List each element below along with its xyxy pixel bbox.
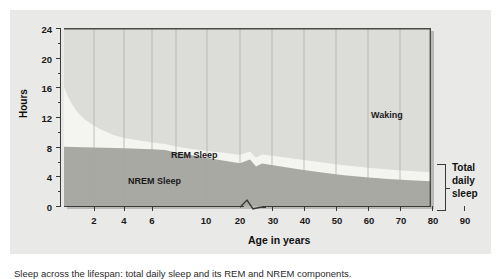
bracket-tick — [445, 188, 450, 189]
band-label-rem: REM Sleep — [171, 150, 218, 160]
x-tick-label-20: 20 — [235, 215, 246, 226]
y-tick-label-12: 12 — [41, 113, 52, 124]
x-tick-label-2: 2 — [91, 215, 96, 226]
x-tick-10 — [272, 206, 273, 211]
x-tick-label-50: 50 — [332, 215, 343, 226]
x-tick-2 — [94, 206, 95, 211]
y-tick-label-8: 8 — [47, 142, 52, 153]
y-tick-0: 0 — [56, 206, 61, 207]
y-tick-12: 12 — [56, 117, 61, 118]
y-tick-24: 24 — [56, 28, 61, 29]
y-tick-minor-18 — [58, 73, 62, 74]
total-sleep-bracket-label: Total daily sleep — [452, 161, 478, 200]
bracket-label-line2: daily — [452, 174, 478, 187]
y-tick-20: 20 — [56, 58, 61, 59]
x-axis-break-icon — [240, 198, 266, 212]
y-tick-label-0: 0 — [47, 202, 52, 213]
y-tick-minor-14 — [58, 102, 62, 103]
x-tick-40 — [368, 206, 369, 211]
x-axis-line-right — [262, 206, 431, 207]
y-tick-label-20: 20 — [41, 53, 52, 64]
x-tick-label-30: 30 — [268, 215, 279, 226]
y-tick-4: 4 — [56, 176, 61, 177]
x-axis: 2 4 6 10 20 30 40 50 60 70 — [64, 206, 431, 208]
y-tick-minor-6 — [58, 162, 62, 163]
y-tick-label-24: 24 — [41, 24, 52, 35]
y-axis-title: Hours — [18, 89, 29, 118]
x-tick-label-6: 6 — [149, 215, 154, 226]
y-tick-8: 8 — [56, 147, 61, 148]
y-tick-label-4: 4 — [47, 172, 52, 183]
x-tick-4 — [124, 206, 125, 211]
bracket-label-line3: sleep — [452, 187, 478, 200]
x-tick-50 — [400, 206, 401, 211]
x-tick-20 — [304, 206, 305, 211]
y-tick-minor-10 — [58, 132, 62, 133]
x-tick-label-4: 4 — [121, 215, 126, 226]
x-tick-30 — [336, 206, 337, 211]
band-label-nrem: NREM Sleep — [128, 176, 181, 186]
plot-area: Waking — [64, 28, 431, 206]
total-sleep-bracket — [437, 164, 446, 211]
x-axis-title: Age in years — [248, 234, 310, 246]
band-label-waking: Waking — [371, 110, 403, 120]
y-tick-16: 16 — [56, 87, 61, 88]
x-tick-label-70: 70 — [396, 215, 407, 226]
figure-caption: Sleep across the lifespan: total daily s… — [14, 268, 484, 279]
x-tick-label-40: 40 — [300, 215, 311, 226]
x-tick-label-60: 60 — [364, 215, 375, 226]
y-tick-minor-22 — [58, 43, 62, 44]
y-tick-label-16: 16 — [41, 83, 52, 94]
x-tick-label-10: 10 — [201, 215, 212, 226]
y-tick-minor-2 — [58, 191, 62, 192]
x-axis-line-left — [64, 206, 244, 207]
bracket-label-line1: Total — [452, 161, 478, 174]
x-tick-6 — [152, 206, 153, 211]
